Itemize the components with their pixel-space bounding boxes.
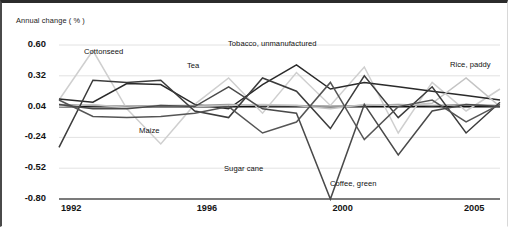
series-annotation-cottonseed: Cottonseed [84, 47, 123, 56]
series-annotation-tobacco-unmanufactured: Tobacco, unmanufactured [228, 39, 317, 48]
y-axis-tick-label: 0.60 [2, 38, 46, 49]
y-axis-tick-label: -0.52 [2, 161, 46, 172]
chart-figure: Annual change ( % ) 0.600.320.04-0.24-0.… [0, 0, 508, 227]
series-line-coffee-green [59, 87, 500, 199]
series-annotation-tea: Tea [187, 61, 199, 70]
plot-area [2, 3, 508, 227]
series-annotation-maize: Maize [139, 126, 160, 135]
x-axis-tick-label: 1996 [197, 203, 217, 213]
x-axis-tick-label: 1992 [61, 203, 81, 213]
y-axis-tick-label: -0.80 [2, 192, 46, 203]
series-annotation-rice-paddy: Rice, paddy [450, 60, 491, 69]
y-axis-tick-label: 0.32 [2, 69, 46, 80]
series-annotation-coffee-green: Coffee, green [330, 179, 377, 188]
series-annotation-sugar-cane: Sugar cane [224, 164, 263, 173]
x-axis-tick-label: 2000 [332, 203, 352, 213]
series-line-cottonseed [59, 51, 500, 145]
y-axis-tick-label: 0.04 [2, 100, 46, 111]
x-axis-tick-label: 2005 [464, 203, 484, 213]
y-axis-tick-label: -0.24 [2, 130, 46, 141]
line-chart-svg [2, 3, 508, 227]
